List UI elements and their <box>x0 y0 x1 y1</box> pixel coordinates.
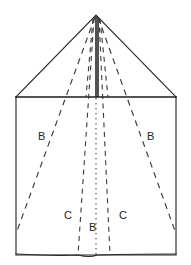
fold-line-c-right <box>99 18 110 255</box>
fold-label-b-right: B <box>147 131 155 142</box>
figure-canvas: B B C C B <box>0 0 191 265</box>
fold-label-b-left: B <box>38 131 46 142</box>
fold-line-b-right <box>98 17 175 231</box>
fold-line-b-left <box>17 17 95 231</box>
fold-label-b-center: B <box>89 222 97 233</box>
fold-label-c-left: C <box>64 210 72 221</box>
fold-line-c-left <box>78 18 94 255</box>
fold-label-c-right: C <box>119 210 127 221</box>
